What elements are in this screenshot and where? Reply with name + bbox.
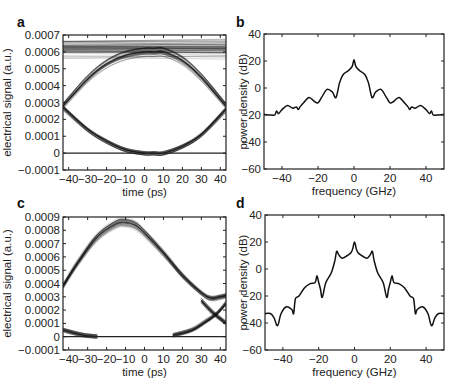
- y-tick-label: 0.0008: [25, 224, 60, 236]
- x-tick-label: −20: [308, 172, 328, 184]
- x-tick-label: −40: [59, 173, 79, 185]
- x-tick-label: 40: [214, 353, 227, 365]
- x-tick-label: 20: [176, 353, 189, 365]
- y-tick-label: 40: [248, 28, 261, 40]
- y-tick-label: 0: [54, 147, 60, 159]
- x-tick-label: 40: [420, 172, 433, 184]
- y-tick-label: 0.0006: [25, 46, 60, 58]
- y-axis-label: electrical signal (a.u.): [1, 229, 13, 338]
- y-axis-label: power density (dB): [237, 53, 249, 149]
- spectrum-line: [265, 242, 444, 326]
- x-tick-label: 20: [384, 353, 397, 365]
- panel-letter-b: b: [236, 14, 245, 30]
- y-tick-label: 0.0006: [25, 251, 60, 263]
- y-tick-label: 0.0003: [25, 97, 60, 109]
- x-tick-label: −40: [273, 353, 293, 365]
- y-axis-label: power density (dB): [237, 234, 249, 330]
- y-tick-label: 0.0001: [25, 317, 60, 329]
- y-tick-label: 0.0004: [25, 80, 61, 92]
- y-tick-label: 0: [255, 82, 261, 94]
- y-tick-label: 0.0002: [25, 304, 60, 316]
- y-tick-label: 0.0002: [25, 113, 60, 125]
- y-tick-label: 0.0003: [25, 291, 60, 303]
- x-tick-label: −40: [59, 353, 79, 365]
- plot-frame: [264, 34, 444, 169]
- y-tick-label: −60: [242, 344, 262, 356]
- y-tick-label: 0: [256, 263, 262, 275]
- y-tick-label: 0.0004: [25, 278, 61, 290]
- x-tick-label: −20: [97, 173, 117, 185]
- x-axis-label: time (ps): [122, 186, 167, 198]
- x-tick-label: −20: [309, 353, 329, 365]
- panel-letter-d: d: [236, 195, 245, 211]
- y-tick-label: 0.0005: [25, 264, 60, 276]
- x-tick-label: 20: [176, 173, 189, 185]
- x-tick-label: 40: [420, 353, 433, 365]
- x-tick-label: 40: [214, 173, 227, 185]
- x-axis-label: time (ps): [122, 366, 167, 378]
- chart-panel-c: −40−30−20−10010203040−0.000100.00010.000…: [1, 211, 227, 378]
- eye-traces: [62, 218, 226, 339]
- y-tick-label: −0.0001: [18, 344, 60, 356]
- y-tick-label: 0: [54, 331, 60, 343]
- plot-frame: [265, 215, 444, 350]
- x-tick-label: 0: [351, 353, 357, 365]
- chart-panel-a: −40−30−20−10010203040−0.000100.00010.000…: [1, 29, 227, 198]
- y-tick-label: −60: [241, 163, 261, 175]
- panel-letter-c: c: [17, 195, 25, 211]
- y-tick-label: 0.0007: [25, 29, 60, 41]
- y-tick-label: 0.0007: [25, 238, 60, 250]
- y-tick-label: 0.0009: [25, 211, 60, 223]
- y-tick-label: 0.0005: [25, 63, 60, 75]
- x-tick-label: 0: [351, 172, 357, 184]
- panel-letter-a: a: [17, 14, 25, 30]
- spectrum-line: [264, 60, 444, 116]
- chart-panel-b: −40−2002040−60−40−2002040frequency (GHz)…: [237, 28, 444, 197]
- y-tick-label: 0.0001: [25, 130, 60, 142]
- x-tick-label: −10: [116, 173, 136, 185]
- x-tick-label: 0: [141, 173, 147, 185]
- y-axis-label: electrical signal (a.u.): [1, 48, 13, 157]
- x-tick-label: 30: [195, 173, 208, 185]
- x-axis-label: frequency (GHz): [312, 366, 397, 378]
- x-tick-label: 20: [384, 172, 397, 184]
- x-tick-label: −20: [97, 353, 117, 365]
- chart-panel-d: −40−2002040−60−40−2002040frequency (GHz)…: [237, 209, 444, 378]
- y-tick-label: 40: [249, 209, 262, 221]
- y-tick-label: 20: [249, 236, 262, 248]
- x-tick-label: −10: [116, 353, 136, 365]
- x-tick-label: −30: [78, 173, 98, 185]
- eye-traces: [62, 39, 226, 156]
- x-axis-label: frequency (GHz): [312, 185, 397, 197]
- x-tick-label: 10: [157, 173, 170, 185]
- x-tick-label: −40: [272, 172, 292, 184]
- x-tick-label: 10: [157, 353, 170, 365]
- figure: a b c d −40−30−20−10010203040−0.000100.0…: [0, 0, 459, 392]
- y-tick-label: −0.0001: [18, 164, 60, 176]
- y-tick-label: 20: [248, 55, 261, 67]
- x-tick-label: −30: [78, 353, 98, 365]
- x-tick-label: 30: [195, 353, 208, 365]
- x-tick-label: 0: [141, 353, 147, 365]
